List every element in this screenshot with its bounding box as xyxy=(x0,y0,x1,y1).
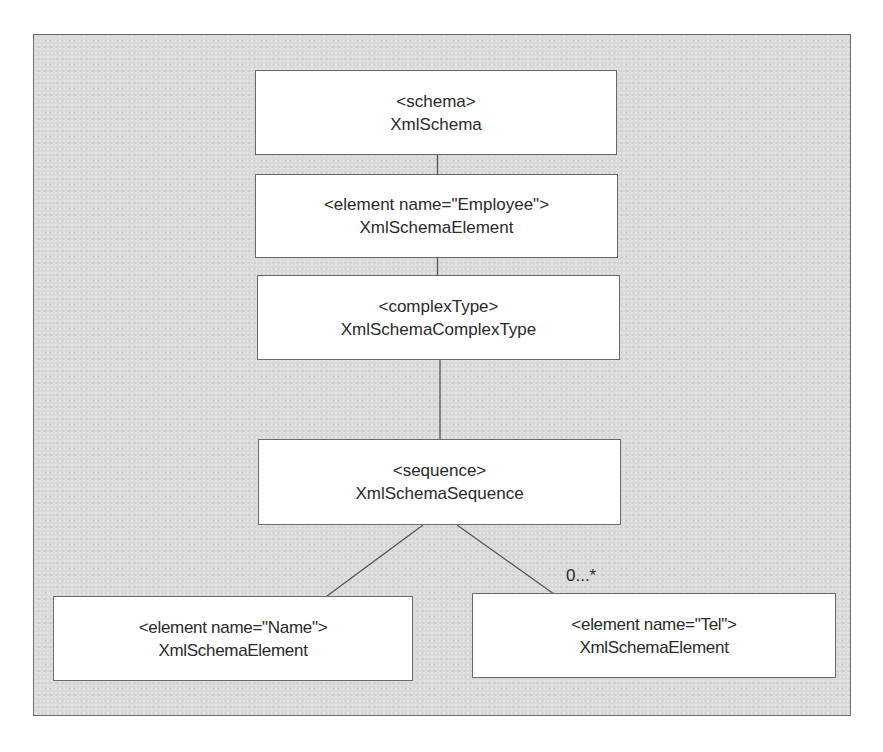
node-class-name: XmlSchemaSequence xyxy=(355,482,523,505)
node-class-name: XmlSchema xyxy=(390,113,482,136)
node-class-name: XmlSchemaElement xyxy=(579,636,728,659)
node-class-name: XmlSchemaComplexType xyxy=(341,318,537,341)
node-element-name: <element name="Name"> XmlSchemaElement xyxy=(53,596,413,681)
node-tag: <schema> xyxy=(396,90,475,113)
node-tag: <element name="Name"> xyxy=(139,616,328,639)
node-class-name: XmlSchemaElement xyxy=(158,639,307,662)
node-tag: <sequence> xyxy=(393,459,487,482)
node-complextype: <complexType> XmlSchemaComplexType xyxy=(257,275,620,360)
node-tag: <element name="Employee"> xyxy=(324,193,549,216)
node-sequence: <sequence> XmlSchemaSequence xyxy=(258,439,621,525)
node-class-name: XmlSchemaElement xyxy=(359,216,513,239)
node-element-employee: <element name="Employee"> XmlSchemaEleme… xyxy=(255,174,618,258)
node-element-tel: <element name="Tel"> XmlSchemaElement xyxy=(472,593,836,678)
node-schema: <schema> XmlSchema xyxy=(255,70,617,155)
node-tag: <complexType> xyxy=(378,295,498,318)
node-tag: <element name="Tel"> xyxy=(571,613,736,636)
multiplicity-label: 0...* xyxy=(566,566,596,586)
